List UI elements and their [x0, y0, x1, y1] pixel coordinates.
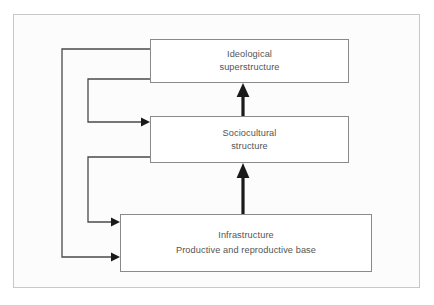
ideological-superstructure-line-1: Ideological	[227, 48, 272, 61]
sociocultural-structure-box[interactable]: Sociocultural structure	[150, 116, 349, 163]
ideological-superstructure-box[interactable]: Ideological superstructure	[150, 39, 349, 83]
infrastructure-box[interactable]: Infrastructure Productive and reproducti…	[120, 214, 372, 272]
infrastructure-line-1: Infrastructure	[218, 228, 274, 243]
figure-root: Ideological superstructure Sociocultural…	[0, 0, 434, 305]
sociocultural-structure-line-2: structure	[231, 140, 268, 153]
infrastructure-line-2: Productive and reproductive base	[176, 243, 316, 258]
sociocultural-structure-line-1: Sociocultural	[223, 127, 277, 140]
ideological-superstructure-line-2: superstructure	[219, 61, 279, 74]
